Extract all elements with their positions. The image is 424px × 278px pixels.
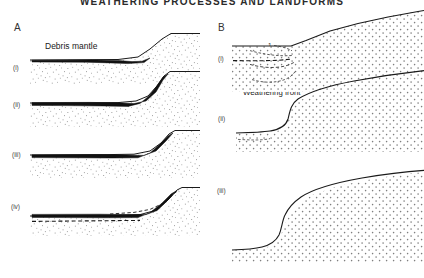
panel-a-group [28,30,202,238]
panel-a-stage-iii [28,126,202,180]
weathered-rock-fill-a-iii [28,126,202,180]
figure-container: WEATHERING PROCESSES AND LANDFORMS A B (… [0,0,424,278]
panel-b-stage-iii [230,168,424,262]
panel-b-group [230,8,424,262]
panel-a-stage-iv [28,184,202,238]
diagram-svg [0,0,424,278]
